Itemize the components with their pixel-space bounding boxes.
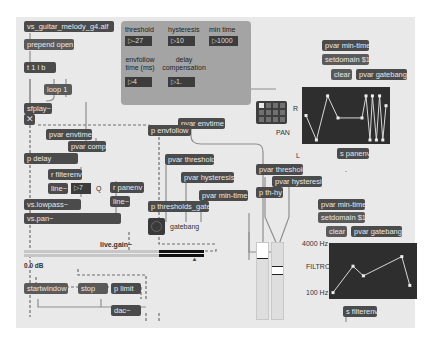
pan-clear-message[interactable]: clear [331, 69, 352, 80]
function-point[interactable] [352, 265, 355, 268]
matrix-cell[interactable] [259, 117, 264, 122]
hysteresis-label: hysteresis [168, 26, 200, 34]
pan-function-graph[interactable] [302, 87, 390, 144]
p-envfollow-object[interactable]: p envfollow [148, 125, 191, 136]
gain-value-label: 0.0 dB [24, 262, 44, 269]
toggle-x-icon[interactable]: ✕ [24, 114, 35, 125]
filter-function-editor[interactable] [329, 243, 417, 299]
pan-pvar-min-time[interactable]: pvar min-time [322, 40, 369, 51]
filter-pvar-min-time[interactable]: pvar min-time [318, 199, 365, 210]
function-point[interactable] [315, 139, 318, 142]
sound-file-message[interactable]: vs_guitar_melody_g4.aif [24, 21, 114, 32]
gatebang-button[interactable] [148, 218, 165, 235]
loop-message[interactable]: loop 1 [44, 84, 72, 95]
bang-circle-icon [151, 221, 162, 232]
threshold-label: threshold [125, 26, 154, 34]
p-thresholds-gate-object[interactable]: p thresholds_gate [148, 201, 209, 212]
function-point[interactable] [378, 94, 381, 97]
line-pan[interactable]: line~ [110, 196, 130, 207]
gatebang-label: gatebang [170, 223, 199, 230]
filtro-label: FILTRO [306, 263, 330, 270]
envfollow-time-label: envfollow time (ms) [123, 56, 157, 72]
delay-compensation-value: 1. [176, 78, 182, 85]
pvar-threshold-2[interactable]: pvar threshold [256, 164, 303, 175]
matrix-cell[interactable] [259, 110, 264, 115]
function-point[interactable] [408, 284, 411, 287]
filter-setdomain-message[interactable]: setdomain $1 [318, 212, 365, 223]
pan-pvar-gatebang[interactable]: pvar gatebang [356, 69, 407, 80]
function-point[interactable] [371, 94, 374, 97]
matrix-cell[interactable] [266, 117, 271, 122]
q-number[interactable]: ▷7 [71, 183, 91, 194]
function-point[interactable] [337, 116, 340, 119]
matrix-cell[interactable] [280, 103, 285, 108]
threshold-number[interactable]: ▷-27 [125, 36, 152, 46]
vs-lowpass-object[interactable]: vs.lowpass~ [24, 199, 81, 210]
hysteresis-slider[interactable] [271, 242, 284, 320]
matrix-cell[interactable] [273, 103, 278, 108]
dac-object[interactable]: dac~ [111, 305, 141, 316]
filter-function-graph[interactable] [329, 243, 417, 299]
matrix-ctrl[interactable] [256, 101, 287, 124]
matrix-cell[interactable] [266, 110, 271, 115]
pvar-envtime-left[interactable]: pvar envtime [46, 129, 92, 140]
stop-message[interactable]: stop [78, 283, 108, 294]
meter-bar-left [24, 250, 204, 253]
q-label: Q [96, 185, 101, 192]
vs-pan-object[interactable]: vs.pan~ [24, 213, 121, 224]
matrix-cell[interactable] [266, 103, 271, 108]
matrix-cell[interactable] [280, 117, 285, 122]
function-point[interactable] [381, 139, 384, 142]
slider-knob[interactable] [257, 243, 268, 258]
s-filterenv[interactable]: s filterenv [343, 306, 377, 317]
hysteresis-number[interactable]: ▷10 [168, 36, 195, 46]
filter-100hz-label: 100 Hz [306, 289, 328, 296]
min-time-number[interactable]: ▷1000 [209, 36, 238, 46]
matrix-cell[interactable] [273, 117, 278, 122]
delay-compensation-number[interactable]: ▷1. [168, 77, 195, 87]
prepend-open-object[interactable]: prepend open [24, 39, 74, 50]
pvar-comp[interactable]: pvar comp [68, 141, 106, 152]
matrix-cell[interactable] [259, 103, 264, 108]
function-point[interactable] [369, 139, 372, 142]
slider-range[interactable] [272, 266, 283, 275]
pvar-hysteresis[interactable]: pvar hysteresis [181, 172, 234, 183]
pan-setdomain-message[interactable]: setdomain $1 [322, 54, 369, 65]
pan-label: PAN [276, 129, 290, 136]
pan-function-editor[interactable] [302, 87, 390, 144]
function-point[interactable] [305, 114, 308, 117]
parameter-panel: threshold ▷-27 hysteresis ▷10 min time ▷… [121, 21, 251, 105]
pvar-min-time[interactable]: pvar min-time [199, 190, 248, 201]
sfplay-object[interactable]: sfplay~ [24, 103, 52, 114]
function-point[interactable] [365, 94, 368, 97]
envfollow-number[interactable]: ▷4 [125, 77, 152, 87]
function-line [306, 96, 386, 140]
pvar-threshold[interactable]: pvar threshold [165, 154, 214, 165]
r-panenv[interactable]: r panenv [110, 182, 144, 193]
function-point[interactable] [385, 104, 388, 107]
p-th-hy-object[interactable]: p th-hy [256, 187, 283, 198]
pvar-hysteresis-2[interactable]: pvar hysteresis [272, 176, 322, 187]
filter-clear-message[interactable]: clear [326, 226, 347, 237]
gain-handle-icon[interactable]: ▲ [191, 256, 197, 262]
p-delay-object[interactable]: p delay [24, 153, 78, 164]
function-point[interactable] [400, 255, 403, 258]
startwindow-message[interactable]: startwindow [24, 283, 68, 294]
function-point[interactable] [362, 274, 365, 277]
s-panenv[interactable]: s panenv [337, 148, 369, 159]
function-point[interactable] [326, 94, 329, 97]
function-point[interactable] [332, 291, 335, 294]
r-filterenv[interactable]: r filterenv [48, 169, 82, 180]
matrix-cell[interactable] [280, 110, 285, 115]
live-gain-slider[interactable]: ▲ [24, 250, 204, 259]
line-filter[interactable]: line~ [48, 183, 68, 194]
filter-pvar-gatebang[interactable]: pvar gatebang [351, 226, 402, 237]
matrix-cell[interactable] [273, 110, 278, 115]
slider-line [257, 258, 268, 259]
function-point[interactable] [375, 139, 378, 142]
threshold-slider[interactable] [256, 242, 269, 320]
function-point[interactable] [361, 116, 364, 119]
meter-bar-right [24, 254, 204, 257]
p-limit-object[interactable]: p limit [111, 283, 141, 294]
trigger-object[interactable]: t 1 l b [24, 62, 56, 73]
